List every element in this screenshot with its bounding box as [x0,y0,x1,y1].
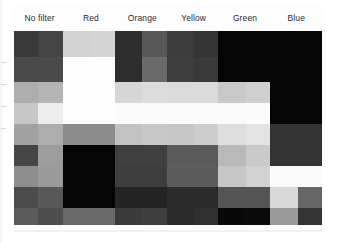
plate-shadow [14,230,322,232]
swatch-cell [118,57,142,83]
swatch-cell [14,166,38,187]
margin-tick-mark [1,62,6,63]
margin-tick-mark [1,84,6,85]
swatch-cell [246,31,270,57]
swatch-cell [273,103,297,124]
swatch-cell [38,166,62,187]
swatch-cell [273,31,297,57]
swatch-cell [246,166,270,187]
swatch-cell [66,57,90,83]
swatch-cell [221,145,245,166]
swatch-cell [118,82,142,103]
swatch-row [14,103,322,124]
swatch-cell [38,124,62,145]
swatch-cell [170,57,194,83]
swatch-cell [273,208,297,225]
swatch-cell [273,57,297,83]
swatch-cell [273,124,297,145]
swatch-cell [298,187,322,208]
swatch-cell [298,57,322,83]
swatch-cell [298,82,322,103]
swatch-row [14,187,322,208]
filter-label-green: Green [219,4,270,31]
filter-label-no-filter: No filter [14,4,65,31]
swatch-cell [170,124,194,145]
swatch-cell [170,145,194,166]
swatch-cell [273,166,297,187]
swatch-cell [194,187,218,208]
swatch-cell [194,103,218,124]
swatch-cell [90,166,114,187]
swatch-cell [14,208,38,225]
swatch-cell [38,103,62,124]
swatch-cell [90,187,114,208]
swatch-cell [273,187,297,208]
swatch-cell [66,166,90,187]
swatch-cell [246,187,270,208]
swatch-cell [221,103,245,124]
swatch-row [14,57,322,83]
swatch-cell [221,124,245,145]
swatch-cell [38,145,62,166]
filter-label-blue: Blue [271,4,322,31]
swatch-cell [298,103,322,124]
swatch-cell [194,31,218,57]
swatch-cell [66,208,90,225]
swatch-cell [142,57,166,83]
filter-comparison-figure: No filter Red Orange Yellow Green Blue [0,0,343,243]
swatch-cell [90,208,114,225]
swatch-row [14,145,322,166]
swatch-cell [246,145,270,166]
swatch-row [14,82,322,103]
swatch-cell [142,82,166,103]
margin-tick-mark [1,106,6,107]
swatch-cell [38,82,62,103]
swatch-cell [38,187,62,208]
swatch-cell [246,103,270,124]
swatch-cell [90,57,114,83]
swatch-cell [170,208,194,225]
swatch-cell [142,103,166,124]
swatch-cell [246,82,270,103]
swatch-cell [142,187,166,208]
swatch-cell [14,103,38,124]
swatch-cell [194,208,218,225]
swatch-cell [118,31,142,57]
swatch-cell [170,82,194,103]
swatch-cell [273,145,297,166]
swatch-cell [118,187,142,208]
swatch-cell [194,57,218,83]
swatch-grid [14,31,322,225]
swatch-cell [170,103,194,124]
swatch-cell [66,124,90,145]
chart-plate: No filter Red Orange Yellow Green Blue [14,4,322,230]
swatch-row [14,208,322,225]
swatch-cell [142,31,166,57]
filter-label-red: Red [65,4,116,31]
swatch-cell [246,124,270,145]
swatch-cell [118,103,142,124]
swatch-cell [90,124,114,145]
swatch-cell [90,82,114,103]
swatch-cell [38,208,62,225]
filter-label-yellow: Yellow [168,4,219,31]
swatch-cell [142,145,166,166]
swatch-row [14,166,322,187]
margin-tick-mark [1,128,6,129]
swatch-cell [170,31,194,57]
swatch-cell [194,145,218,166]
swatch-cell [170,166,194,187]
swatch-cell [14,82,38,103]
swatch-cell [14,57,38,83]
swatch-cell [298,31,322,57]
swatch-cell [246,208,270,225]
swatch-cell [298,145,322,166]
swatch-cell [118,124,142,145]
swatch-cell [90,103,114,124]
swatch-cell [66,145,90,166]
swatch-cell [90,145,114,166]
swatch-cell [66,31,90,57]
swatch-cell [170,187,194,208]
swatch-cell [38,31,62,57]
swatch-cell [221,208,245,225]
